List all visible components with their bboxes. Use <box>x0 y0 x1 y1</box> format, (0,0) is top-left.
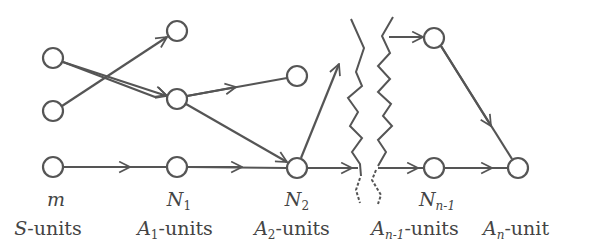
count-sub: 1 <box>183 199 191 213</box>
layer-break-marker <box>348 17 393 204</box>
unit-letter: A <box>137 217 151 239</box>
node-an1-2 <box>424 158 444 178</box>
zigzag-line-left-tail <box>356 178 360 203</box>
unit-label-an: An-unit <box>483 219 549 238</box>
node-a2-1 <box>287 66 307 86</box>
edge-an1-1-to-an-arrow <box>441 46 491 126</box>
node-s2 <box>43 101 63 121</box>
unit-suffix: -units <box>159 217 213 239</box>
node-a2-2 <box>287 158 307 178</box>
unit-label-a2: A2-units <box>254 219 330 238</box>
node-an1-1 <box>424 28 444 48</box>
edge-a1-2-to-a2-2 <box>186 104 287 162</box>
count-n: N <box>167 188 184 210</box>
unit-letter: A <box>254 217 268 239</box>
unit-suffix: -units <box>27 217 81 239</box>
count-label-a1: N1 <box>167 190 191 209</box>
count-n: N <box>419 188 436 210</box>
node-an <box>508 158 528 178</box>
zigzag-line-left <box>348 19 364 176</box>
unit-sub: n-1 <box>385 228 404 242</box>
unit-suffix: -unit <box>504 217 549 239</box>
unit-label-s: S-units <box>14 219 81 238</box>
unit-suffix: -units <box>276 217 330 239</box>
unit-letter: A <box>483 217 497 239</box>
count-sub: 2 <box>301 199 309 213</box>
unit-label-a1: A1-units <box>137 219 213 238</box>
node-a1-1 <box>167 21 187 41</box>
zigzag-line-right-tail <box>372 170 381 204</box>
edge-s1-to-a1-2 <box>63 62 167 96</box>
edges <box>62 37 512 168</box>
node-a1-2 <box>167 89 187 109</box>
count-n: N <box>285 188 302 210</box>
node-s3 <box>43 157 63 177</box>
unit-letter: S <box>14 217 27 239</box>
zigzag-line-right <box>378 17 393 166</box>
node-s1 <box>43 48 63 68</box>
count-m: m <box>47 188 65 210</box>
edge-a1-2-to-a2-1-arrow <box>187 87 236 96</box>
unit-letter: A <box>371 217 385 239</box>
unit-label-an1: An-1-units <box>371 219 459 238</box>
node-a1-3 <box>167 157 187 177</box>
count-label-a2: N2 <box>285 190 309 209</box>
count-sub: n-1 <box>436 199 455 213</box>
nodes <box>43 21 528 178</box>
count-label-s: m <box>47 190 65 209</box>
count-label-an1: Nn-1 <box>419 190 455 209</box>
network-diagram <box>0 0 590 249</box>
unit-suffix: -units <box>404 217 458 239</box>
